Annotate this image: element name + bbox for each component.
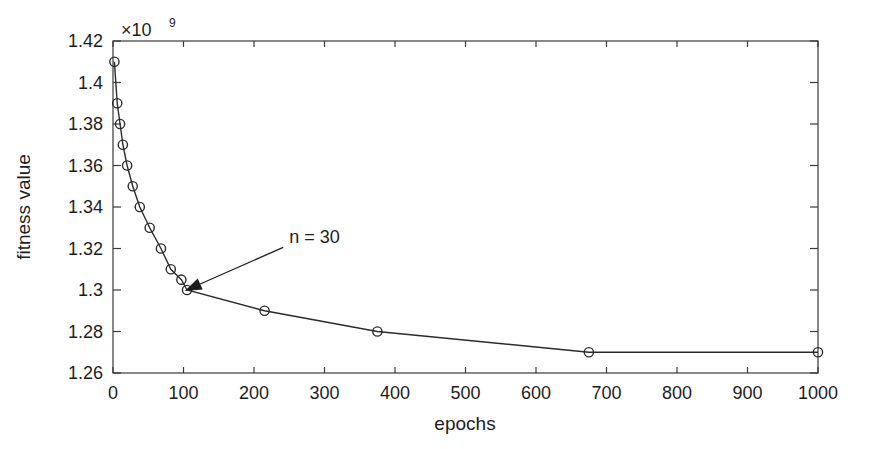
y-tick-label: 1.38	[68, 114, 103, 134]
y-tick-label: 1.4	[78, 73, 103, 93]
annotation-label: n = 30	[289, 227, 340, 247]
y-tick-label: 1.32	[68, 239, 103, 259]
y-axis-exponent-power: 9	[169, 16, 176, 30]
plot-axes	[113, 41, 818, 373]
y-axis-exponent-label: ×10	[121, 20, 152, 40]
x-tick-label: 800	[662, 383, 692, 403]
y-tick-label: 1.42	[68, 31, 103, 51]
x-tick-label: 700	[591, 383, 621, 403]
y-axis-tick-labels: 1.261.281.31.321.341.361.381.41.42	[68, 31, 103, 383]
x-tick-label: 900	[732, 383, 762, 403]
x-tick-label: 1000	[798, 383, 838, 403]
x-tick-label: 400	[380, 383, 410, 403]
y-tick-label: 1.3	[78, 280, 103, 300]
x-tick-label: 600	[521, 383, 551, 403]
fitness-value-line-chart: 01002003004005006007008009001000 1.261.2…	[0, 0, 874, 449]
x-axis-tick-labels: 01002003004005006007008009001000	[108, 383, 838, 403]
y-tick-label: 1.28	[68, 322, 103, 342]
x-tick-label: 200	[239, 383, 269, 403]
annotation-arrow-line	[200, 247, 283, 284]
y-axis-title: fitness value	[13, 154, 34, 260]
y-tick-label: 1.34	[68, 197, 103, 217]
annotation-n-30: n = 30	[185, 227, 340, 291]
x-axis-ticks	[113, 41, 818, 373]
figure-container: 01002003004005006007008009001000 1.261.2…	[0, 0, 874, 449]
x-tick-label: 500	[450, 383, 480, 403]
x-tick-label: 300	[309, 383, 339, 403]
x-axis-title: epochs	[434, 413, 495, 434]
plot-frame	[113, 41, 818, 373]
x-tick-label: 0	[108, 383, 118, 403]
y-tick-label: 1.36	[68, 156, 103, 176]
data-series-markers	[110, 57, 823, 357]
x-tick-label: 100	[168, 383, 198, 403]
y-axis-ticks	[113, 41, 818, 373]
y-tick-label: 1.26	[68, 363, 103, 383]
data-series-line	[114, 62, 818, 353]
